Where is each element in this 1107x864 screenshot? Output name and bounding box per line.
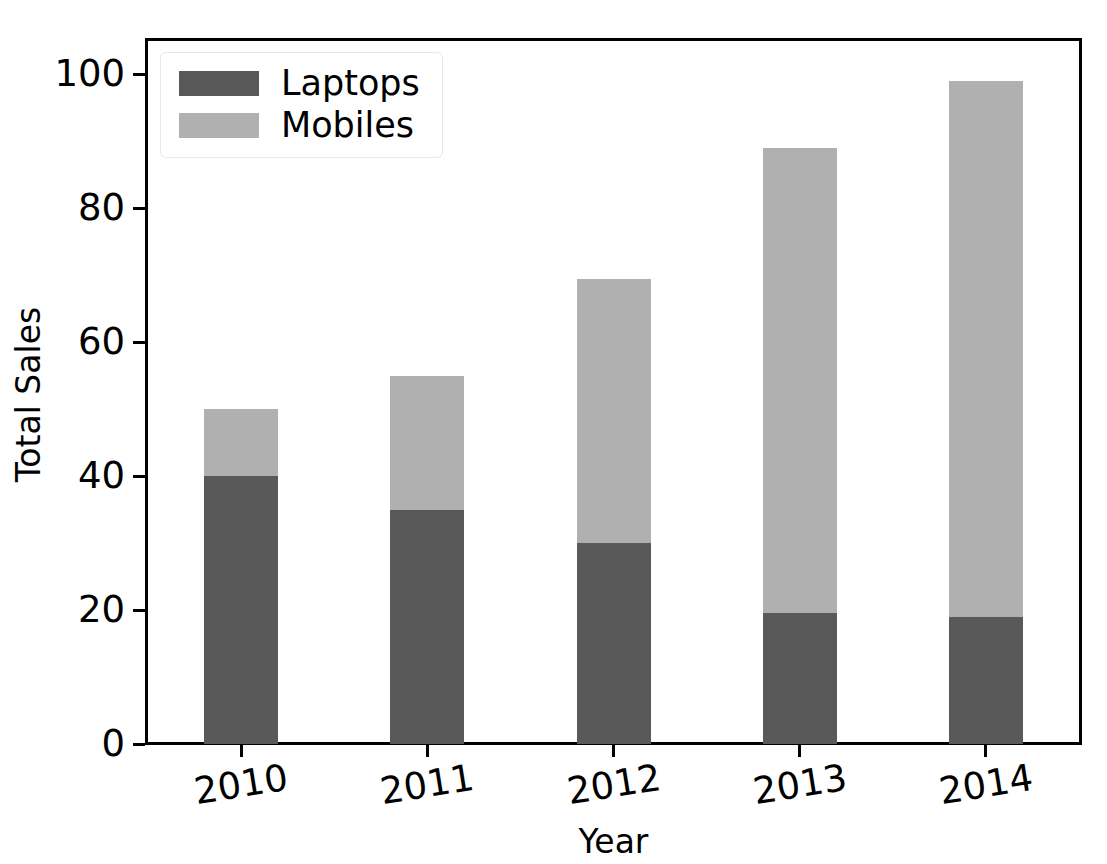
bar-segment-laptops-2014[interactable] xyxy=(949,617,1023,744)
legend-item-mobiles[interactable]: Mobiles xyxy=(179,104,420,146)
chart-title-clip xyxy=(0,0,1107,9)
y-tick-label: 20 xyxy=(78,588,125,632)
bar-segment-laptops-2013[interactable] xyxy=(763,613,837,744)
legend-swatch-mobiles xyxy=(179,113,259,138)
y-tick-label: 60 xyxy=(78,320,125,364)
bar-group-2011[interactable] xyxy=(390,376,464,744)
chart-legend: LaptopsMobiles xyxy=(160,52,443,158)
bar-group-2014[interactable] xyxy=(949,81,1023,744)
y-tick-mark xyxy=(133,743,145,746)
x-tick-label: 2013 xyxy=(727,752,872,816)
bar-segment-laptops-2010[interactable] xyxy=(204,476,278,744)
bar-segment-mobiles-2011[interactable] xyxy=(390,376,464,510)
x-tick-label: 2011 xyxy=(355,752,500,816)
y-tick-mark xyxy=(133,207,145,210)
y-tick-mark xyxy=(133,609,145,612)
x-tick-label: 2012 xyxy=(541,752,686,816)
bar-segment-laptops-2012[interactable] xyxy=(577,543,651,744)
bar-segment-mobiles-2013[interactable] xyxy=(763,148,837,613)
x-tick-mark xyxy=(984,745,987,757)
x-tick-mark xyxy=(426,745,429,757)
bar-segment-mobiles-2010[interactable] xyxy=(204,409,278,476)
y-tick-label: 40 xyxy=(78,454,125,498)
y-tick-label: 80 xyxy=(78,186,125,230)
legend-label: Mobiles xyxy=(281,106,414,144)
y-tick-mark xyxy=(133,341,145,344)
bar-group-2012[interactable] xyxy=(577,279,651,744)
x-tick-label: 2010 xyxy=(169,752,314,816)
x-axis-label: Year xyxy=(145,822,1082,861)
legend-label: Laptops xyxy=(281,64,420,102)
bar-group-2013[interactable] xyxy=(763,148,837,744)
legend-item-laptops[interactable]: Laptops xyxy=(179,62,420,104)
bar-segment-mobiles-2014[interactable] xyxy=(949,81,1023,617)
x-tick-mark xyxy=(612,745,615,757)
bar-segment-laptops-2011[interactable] xyxy=(390,510,464,744)
y-axis-label: Total Sales xyxy=(9,235,48,555)
legend-swatch-laptops xyxy=(179,71,259,96)
x-tick-mark xyxy=(240,745,243,757)
x-tick-label: 2014 xyxy=(913,752,1058,816)
y-tick-mark xyxy=(133,475,145,478)
bar-segment-mobiles-2012[interactable] xyxy=(577,279,651,543)
y-tick-mark xyxy=(133,73,145,76)
bar-group-2010[interactable] xyxy=(204,409,278,744)
y-tick-label: 100 xyxy=(54,52,125,96)
chart-figure: 020406080100 20102011201220132014 Year T… xyxy=(0,0,1107,864)
x-tick-mark xyxy=(798,745,801,757)
y-tick-label: 0 xyxy=(101,722,125,766)
